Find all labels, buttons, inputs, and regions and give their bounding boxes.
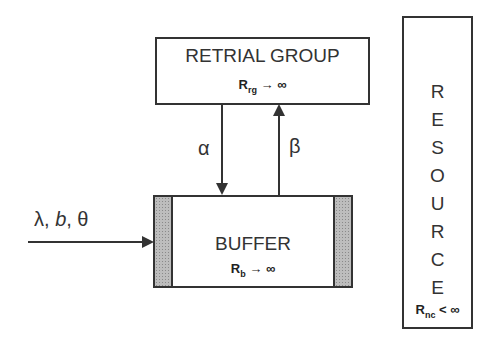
resource-letter: R bbox=[404, 218, 471, 246]
buffer-box: BUFFER Rb → ∞ bbox=[153, 195, 353, 288]
resource-letter: E bbox=[404, 106, 471, 134]
beta-label: β bbox=[289, 135, 301, 158]
retrial-group-box: RETRIAL GROUP Rrg → ∞ bbox=[155, 37, 370, 105]
resource-letter: E bbox=[404, 274, 471, 302]
resource-letter: R bbox=[404, 78, 471, 106]
resource-letter: C bbox=[404, 246, 471, 274]
alpha-label: α bbox=[198, 137, 210, 160]
resource-letter: S bbox=[404, 134, 471, 162]
resource-box: R E S O U R C E Rnc < ∞ bbox=[402, 16, 473, 329]
retrial-group-title: RETRIAL GROUP bbox=[157, 45, 368, 67]
resource-formula: Rnc < ∞ bbox=[404, 302, 471, 320]
buffer-formula: Rb → ∞ bbox=[155, 261, 351, 279]
resource-letter: O bbox=[404, 162, 471, 190]
resource-letter: U bbox=[404, 190, 471, 218]
buffer-title: BUFFER bbox=[155, 233, 351, 255]
resource-letters: R E S O U R C E bbox=[404, 78, 471, 302]
input-label: λ, b, θ bbox=[34, 208, 89, 231]
retrial-group-formula: Rrg → ∞ bbox=[157, 77, 368, 95]
